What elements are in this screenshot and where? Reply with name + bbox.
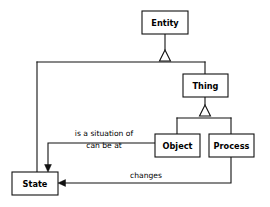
- class-box-state-label: State: [23, 179, 48, 189]
- class-box-process-label: Process: [214, 141, 250, 151]
- edge-label-can-be-at: can be at: [86, 141, 122, 150]
- class-box-object-label: Object: [163, 141, 193, 151]
- generalization-thing: [177, 97, 231, 134]
- class-box-entity-label: Entity: [151, 18, 179, 28]
- edge-label-is-a-situation-of: is a situation of: [75, 129, 134, 138]
- edge-label-changes: changes: [130, 171, 162, 180]
- class-box-thing-label: Thing: [193, 81, 219, 91]
- class-box-entity[interactable]: Entity: [142, 11, 188, 34]
- association-object-to-state-arrowhead: [45, 165, 52, 173]
- generalization-thing-triangle: [200, 105, 211, 116]
- class-box-process[interactable]: Process: [209, 134, 254, 157]
- diagram-canvas: Entity Thing Object Process State is a s…: [0, 0, 270, 207]
- class-box-object[interactable]: Object: [155, 134, 200, 157]
- generalization-entity-triangle: [160, 50, 171, 61]
- class-box-thing[interactable]: Thing: [183, 74, 228, 97]
- association-process-to-state-arrowhead: [58, 180, 66, 187]
- uml-class-diagram: Entity Thing Object Process State is a s…: [0, 0, 270, 207]
- class-box-state[interactable]: State: [12, 172, 58, 195]
